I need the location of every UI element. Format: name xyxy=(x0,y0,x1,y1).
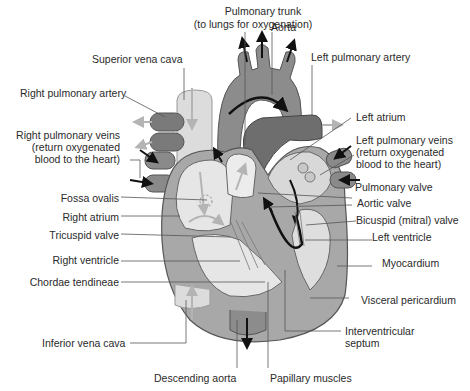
label-tricuspid-valve: Tricuspid valve xyxy=(0,229,119,241)
label-aorta: Aorta xyxy=(271,21,296,33)
label-superior-vena-cava: Superior vena cava xyxy=(92,53,182,65)
label-left-ventricle: Left ventricle xyxy=(372,231,432,243)
label-aortic-valve: Aortic valve xyxy=(357,197,411,209)
label-interventricular-septum-1: Interventricular xyxy=(345,325,414,337)
label-right-pulmonary-veins-note1: (return oxygenated xyxy=(0,141,120,153)
label-left-pulmonary-veins-note1: (return oxygenated xyxy=(356,146,444,158)
label-left-pulmonary-veins-note2: blood to the heart) xyxy=(356,158,441,170)
label-right-pulmonary-veins: Right pulmonary veins xyxy=(0,129,120,141)
label-interventricular-septum-2: septum xyxy=(345,337,379,349)
label-pulmonary-trunk-note: (to lungs for oxygenation) xyxy=(178,18,328,30)
label-myocardium: Myocardium xyxy=(382,257,439,269)
heart-diagram: Pulmonary trunk (to lungs for oxygenatio… xyxy=(0,0,470,391)
label-pulmonary-trunk: Pulmonary trunk xyxy=(203,5,323,17)
label-left-atrium: Left atrium xyxy=(356,111,406,123)
label-right-pulmonary-artery: Right pulmonary artery xyxy=(20,87,126,99)
label-left-pulmonary-veins: Left pulmonary veins xyxy=(356,134,453,146)
label-right-pulmonary-veins-note2: blood to the heart) xyxy=(0,153,120,165)
label-right-atrium: Right atrium xyxy=(0,211,119,223)
label-fossa-ovalis: Fossa ovalis xyxy=(0,192,119,204)
label-descending-aorta: Descending aorta xyxy=(154,372,236,384)
label-chordae-tendineae: Chordae tendineae xyxy=(0,276,119,288)
label-right-ventricle: Right ventricle xyxy=(0,254,119,266)
label-visceral-pericardium: Visceral pericardium xyxy=(361,294,456,306)
label-left-pulmonary-artery: Left pulmonary artery xyxy=(311,51,410,63)
label-inferior-vena-cava: Inferior vena cava xyxy=(42,337,125,349)
label-pulmonary-valve: Pulmonary valve xyxy=(355,181,433,193)
label-bicuspid-valve: Bicuspid (mitral) valve xyxy=(356,214,459,226)
label-papillary-muscles: Papillary muscles xyxy=(270,372,352,384)
